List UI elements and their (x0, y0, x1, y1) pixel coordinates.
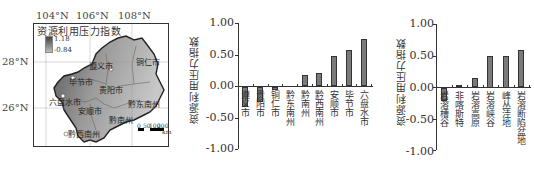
region-label-bijie: 毕节市 (69, 76, 93, 87)
region-label-qiandongnan: 黔东南州 (128, 98, 160, 109)
bar (361, 39, 367, 86)
region-label-qianxinan: 黔西南州 (68, 128, 100, 139)
y-tick-mark (235, 118, 238, 119)
y-tick: -0.50 (398, 113, 434, 126)
scale-tick-0: 0 (137, 122, 141, 129)
x-tick-mark (529, 85, 530, 88)
lon-label-106: 106°N (76, 10, 109, 21)
y-tick-mark (433, 150, 436, 151)
region-label-tongren: 铜仁市 (136, 56, 160, 67)
bar (487, 56, 493, 88)
x-tick-mark (253, 84, 254, 87)
region-label-guiyang: 贵阳市 (99, 84, 123, 95)
bar (503, 56, 509, 88)
category-label: 岩溶断陷盆地 (516, 91, 526, 145)
bar (302, 75, 308, 86)
y-tick-mark (433, 119, 436, 120)
y-tick-mark (433, 56, 436, 57)
category-label: 岩溶槽谷 (439, 91, 449, 127)
y-tick: 0.50 (198, 48, 234, 61)
y-tick: 1.00 (198, 16, 234, 29)
y-tick: -0.50 (198, 111, 234, 124)
y-tick: -1.00 (398, 145, 434, 158)
y-tick: 0.00 (398, 81, 434, 94)
y-tick-mark (235, 23, 238, 24)
category-label: 贵阳市 (255, 90, 265, 117)
bar (346, 50, 352, 86)
y-tick-mark (433, 24, 436, 25)
x-tick-mark (483, 85, 484, 88)
bar (472, 78, 478, 87)
y-tick: -1.00 (198, 142, 234, 155)
bar (316, 73, 322, 86)
region-label-zunyi: 遵义市 (89, 60, 113, 71)
category-label: 毕节市 (344, 90, 354, 117)
category-label: 黔西南州 (314, 90, 324, 126)
legend-gradient (45, 36, 53, 53)
bar (456, 85, 462, 87)
x-tick-mark (452, 85, 453, 88)
x-tick-mark (342, 84, 343, 87)
region-label-anshun: 安顺市 (78, 105, 102, 116)
category-label: 岩溶峡谷 (485, 91, 495, 127)
category-label: 安顺市 (329, 90, 339, 117)
legend-max: 1.18 (54, 35, 70, 43)
y-tick: 0.00 (198, 79, 234, 92)
x-tick-mark (312, 84, 313, 87)
category-label: 非喀斯特 (454, 91, 464, 127)
x-tick-mark (498, 85, 499, 88)
lat-label-28: 28°N (2, 56, 28, 67)
legend-min: -0.84 (54, 46, 72, 54)
y-tick-mark (235, 149, 238, 150)
category-label: 黔东南州 (285, 90, 295, 126)
y-tick: 0.50 (398, 49, 434, 62)
x-tick-mark (282, 84, 283, 87)
y-tick-mark (235, 55, 238, 56)
category-label: 铜仁市 (270, 90, 280, 117)
bar (331, 56, 337, 86)
x-tick-mark (514, 85, 515, 88)
category-label: 六盘水市 (359, 90, 369, 126)
x-tick-mark (268, 84, 269, 87)
region-label-liupanshui: 六盘水市 (49, 96, 81, 107)
category-label: 岩溶高原 (470, 91, 480, 127)
lon-label-104: 104°N (36, 10, 69, 21)
lat-label-26: 26°N (2, 102, 28, 113)
region-label-qiannan: 黔南州 (109, 114, 133, 125)
x-tick-mark (467, 85, 468, 88)
x-tick-mark (327, 84, 328, 87)
category-label: 遵义市 (240, 90, 250, 117)
category-label: 峰丛洼地 (501, 91, 511, 127)
x-tick-mark (356, 84, 357, 87)
scale-unit: km (162, 128, 171, 135)
y-tick: 1.00 (398, 17, 434, 30)
lon-label-108: 108°N (118, 10, 151, 21)
category-label: 黔南州 (300, 90, 310, 117)
x-tick-mark (371, 84, 372, 87)
bar (518, 50, 524, 87)
x-tick-mark (297, 84, 298, 87)
